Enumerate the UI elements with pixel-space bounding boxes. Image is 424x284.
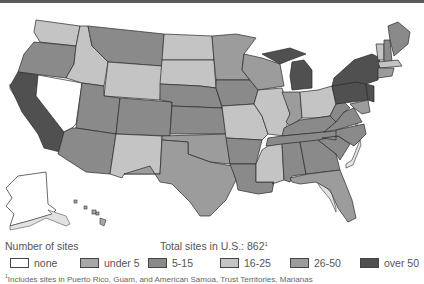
state-arizona <box>58 128 116 174</box>
state-wyoming <box>104 62 162 100</box>
top-rule <box>0 0 424 3</box>
legend-item-over-50: over 50 <box>360 256 419 270</box>
legend-label: none <box>34 257 57 269</box>
legend-swatch-over-50 <box>360 258 379 268</box>
legend: none under 5 5-15 16-25 26-50 over 50 <box>10 256 424 270</box>
total-sites-label: Total sites in U.S.: <box>160 240 244 252</box>
legend-swatch-5-15 <box>148 258 167 268</box>
state-oregon <box>18 42 76 78</box>
legend-title: Number of sites <box>5 240 79 252</box>
total-sites-value: 862 <box>247 240 265 252</box>
legend-label: 26-50 <box>314 257 341 269</box>
legend-item-5-15: 5-15 <box>148 256 193 270</box>
state-new-york <box>332 54 380 86</box>
state-ohio <box>300 86 336 118</box>
legend-item-26-50: 26-50 <box>290 256 341 270</box>
state-south-dakota <box>160 60 216 88</box>
legend-label: over 50 <box>384 257 419 269</box>
legend-label: 5-15 <box>172 257 193 269</box>
legend-label: 16-25 <box>244 257 271 269</box>
footnote: 1Includes sites in Puerto Rico, Guam, an… <box>5 273 313 284</box>
total-footnote-mark: 1 <box>264 241 267 247</box>
state-north-dakota <box>162 34 214 60</box>
footnote-text: Includes sites in Puerto Rico, Guam, and… <box>8 275 313 284</box>
legend-swatch-none <box>10 258 29 268</box>
us-map <box>0 4 424 232</box>
legend-label: under 5 <box>104 257 140 269</box>
state-arkansas <box>226 138 262 164</box>
state-iowa <box>216 80 258 106</box>
state-mississippi <box>256 144 284 184</box>
state-washington <box>34 20 80 46</box>
total-sites: Total sites in U.S.: 8621 <box>160 240 268 252</box>
legend-item-16-25: 16-25 <box>220 256 271 270</box>
state-colorado <box>116 98 172 136</box>
state-hawaii <box>74 200 106 226</box>
state-florida <box>290 170 356 222</box>
legend-swatch-26-50 <box>290 258 309 268</box>
legend-swatch-under-5 <box>80 258 99 268</box>
legend-item-under-5: under 5 <box>80 256 140 270</box>
legend-swatch-16-25 <box>220 258 239 268</box>
legend-item-none: none <box>10 256 57 270</box>
state-michigan <box>290 60 312 90</box>
state-kansas <box>170 106 226 134</box>
state-massachusetts <box>378 60 402 68</box>
state-connecticut-ri <box>378 68 394 78</box>
